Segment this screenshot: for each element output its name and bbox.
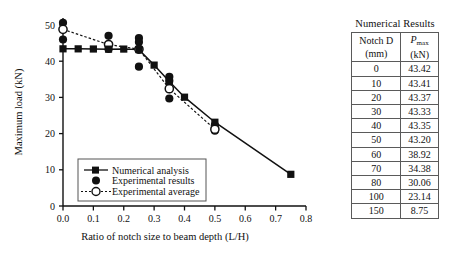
- x-tick-label: 0.1: [87, 213, 100, 224]
- experimental-average-data-point: [211, 125, 219, 133]
- cell-pmax: 43.37: [401, 90, 439, 104]
- cell-notch-d: 70: [352, 161, 401, 175]
- table-row: 4043.35: [352, 119, 439, 133]
- filled-square-icon: [92, 167, 99, 174]
- table-row: 7034.38: [352, 161, 439, 175]
- column-header-pmax-line2: (kN): [408, 48, 431, 61]
- maximum-load-vs-notch-ratio-chart: 01020304050 0.00.10.20.30.40.50.60.70.8 …: [0, 0, 320, 265]
- cell-notch-d: 0: [352, 62, 401, 76]
- experimental-results-points: [59, 19, 219, 135]
- numerical-results-table: Notch D (mm) Pmax (kN) 043.421043.412043…: [351, 32, 439, 219]
- numerical-analysis-data-point: [211, 119, 218, 126]
- cell-notch-d: 40: [352, 119, 401, 133]
- legend-label-experimental-results: Experimental results: [112, 175, 195, 186]
- x-axis-ticks: 0.00.10.20.30.40.50.60.70.8: [57, 206, 313, 224]
- cell-pmax: 23.14: [401, 190, 439, 204]
- x-tick-label: 0.7: [269, 213, 282, 224]
- x-tick-label: 0.0: [57, 213, 70, 224]
- cell-pmax: 8.75: [401, 204, 439, 218]
- cell-notch-d: 30: [352, 105, 401, 119]
- cell-pmax: 38.92: [401, 147, 439, 161]
- x-tick-label: 0.2: [118, 213, 131, 224]
- cell-pmax: 30.06: [401, 176, 439, 190]
- table-row: 8030.06: [352, 176, 439, 190]
- x-tick-label: 0.3: [148, 213, 161, 224]
- pmax-symbol: P: [410, 34, 416, 45]
- y-tick-label: 40: [45, 56, 55, 67]
- cell-notch-d: 150: [352, 204, 401, 218]
- table-caption: Numerical Results: [322, 18, 468, 29]
- table-row: 1043.41: [352, 76, 439, 90]
- table-row: 043.42: [352, 62, 439, 76]
- cell-pmax: 43.42: [401, 62, 439, 76]
- experimental-average-data-point: [59, 25, 67, 33]
- numerical-analysis-line: [63, 49, 291, 175]
- table-row: 5043.20: [352, 133, 439, 147]
- figure-root: 01020304050 0.00.10.20.30.40.50.60.70.8 …: [0, 0, 470, 265]
- numerical-results-panel: Numerical Results Notch D (mm) Pmax (kN)…: [322, 18, 468, 219]
- experimental-data-point: [165, 94, 173, 102]
- pmax-subscript: max: [417, 39, 429, 47]
- y-tick-label: 20: [45, 128, 55, 139]
- cell-notch-d: 50: [352, 133, 401, 147]
- experimental-data-point: [135, 63, 143, 71]
- experimental-data-point: [59, 35, 67, 43]
- cell-notch-d: 10: [352, 76, 401, 90]
- x-axis-title: Ratio of notch size to beam depth (L/H): [81, 231, 249, 243]
- cell-notch-d: 60: [352, 147, 401, 161]
- numerical-analysis-data-point: [75, 45, 82, 52]
- x-tick-label: 0.4: [178, 213, 191, 224]
- y-tick-label: 10: [45, 164, 55, 175]
- cell-notch-d: 20: [352, 90, 401, 104]
- column-header-notch-d-line1: Notch D: [359, 34, 393, 47]
- numerical-analysis-data-point: [166, 78, 173, 85]
- table-head: Notch D (mm) Pmax (kN): [352, 33, 439, 62]
- table-row: 10023.14: [352, 190, 439, 204]
- x-tick-label: 0.6: [239, 213, 252, 224]
- cell-pmax: 43.35: [401, 119, 439, 133]
- legend-label-experimental-average: Experimental average: [112, 186, 200, 197]
- column-header-pmax-line1: Pmax: [408, 33, 431, 48]
- table-row: 3043.33: [352, 105, 439, 119]
- open-circle-icon: [92, 188, 100, 196]
- numerical-analysis-data-point: [151, 62, 158, 69]
- column-header-notch-d-line2: (mm): [359, 47, 393, 60]
- y-tick-label: 0: [50, 201, 55, 212]
- cell-notch-d: 100: [352, 190, 401, 204]
- numerical-analysis-data-point: [181, 94, 188, 101]
- numerical-analysis-data-point: [59, 45, 66, 52]
- numerical-analysis-markers: [59, 45, 294, 178]
- column-header-notch-d: Notch D (mm): [352, 33, 401, 62]
- numerical-analysis-polyline: [63, 49, 291, 175]
- numerical-analysis-data-point: [120, 45, 127, 52]
- table-row: 2043.37: [352, 90, 439, 104]
- chart-legend: Numerical analysis Experimental results …: [78, 159, 206, 201]
- cell-notch-d: 80: [352, 176, 401, 190]
- y-tick-label: 50: [45, 20, 55, 31]
- column-header-pmax: Pmax (kN): [401, 33, 439, 62]
- chart-panel: 01020304050 0.00.10.20.30.40.50.60.70.8 …: [0, 0, 320, 265]
- numerical-analysis-data-point: [135, 46, 142, 53]
- y-tick-label: 30: [45, 92, 55, 103]
- table-header-row: Notch D (mm) Pmax (kN): [352, 33, 439, 62]
- cell-pmax: 43.20: [401, 133, 439, 147]
- filled-circle-icon: [92, 177, 100, 185]
- cell-pmax: 43.33: [401, 105, 439, 119]
- legend-label-numerical-analysis: Numerical analysis: [112, 165, 189, 176]
- numerical-analysis-data-point: [90, 45, 97, 52]
- numerical-analysis-data-point: [105, 46, 112, 53]
- cell-pmax: 43.41: [401, 76, 439, 90]
- y-axis-title: Maximum load (kN): [13, 68, 25, 155]
- experimental-data-point: [104, 32, 112, 40]
- table-row: 6038.92: [352, 147, 439, 161]
- table-body: 043.421043.412043.373043.334043.355043.2…: [352, 62, 439, 218]
- experimental-average-data-point: [165, 85, 173, 93]
- x-tick-label: 0.8: [300, 213, 313, 224]
- x-tick-label: 0.5: [209, 213, 222, 224]
- table-row: 1508.75: [352, 204, 439, 218]
- numerical-analysis-data-point: [287, 171, 294, 178]
- cell-pmax: 34.38: [401, 161, 439, 175]
